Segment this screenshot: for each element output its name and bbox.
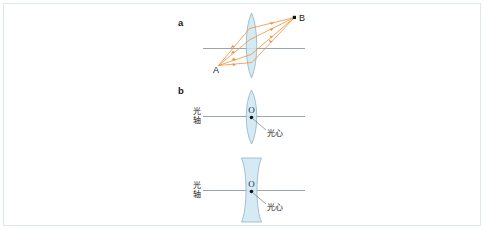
panel-a-point-b-dot bbox=[293, 16, 296, 19]
panel-c-center-letter: O bbox=[248, 179, 255, 189]
panel-c-axis-label-char-2: 轴 bbox=[193, 189, 201, 199]
panel-b-letter: b bbox=[178, 85, 184, 96]
panel-a-letter: a bbox=[178, 17, 184, 28]
figure-canvas: a bbox=[0, 0, 485, 230]
panel-a-convex-lens bbox=[246, 13, 257, 78]
panel-b-center-label: 光心 bbox=[267, 128, 283, 138]
panel-a-point-b-label: B bbox=[299, 13, 305, 23]
panel-b-center-letter: O bbox=[248, 105, 255, 115]
panel-b-axis-label-char-1: 光 bbox=[193, 106, 201, 116]
panel-a: a bbox=[178, 13, 305, 78]
panel-b-axis-label: 光 轴 bbox=[193, 106, 201, 125]
panel-b-axis-label-char-2: 轴 bbox=[193, 115, 201, 125]
panel-c: O 光 轴 光心 bbox=[193, 158, 305, 222]
panel-c-center-label: 光心 bbox=[267, 202, 283, 212]
optics-figure: a bbox=[0, 0, 485, 230]
panel-a-point-a-label: A bbox=[213, 65, 219, 75]
panel-c-axis-label-char-1: 光 bbox=[193, 180, 201, 190]
panel-c-axis-label: 光 轴 bbox=[193, 180, 201, 199]
panel-b: b O 光 轴 光心 bbox=[178, 85, 305, 144]
